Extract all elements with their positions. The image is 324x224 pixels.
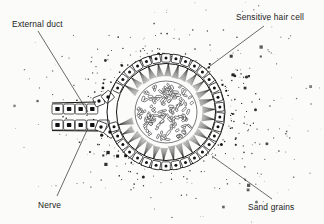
statolith-mass [135,81,197,143]
label-sand-grains: Sand grains [248,202,294,212]
diagram-canvas: External duct Sensitive hair cell Nerve … [0,0,324,224]
statocyst-diagram-figure: External duct Sensitive hair cell Nerve … [0,0,324,224]
label-sensitive-hair-cell: Sensitive hair cell [236,12,304,22]
label-nerve: Nerve [38,200,61,210]
label-external-duct: External duct [12,19,63,29]
